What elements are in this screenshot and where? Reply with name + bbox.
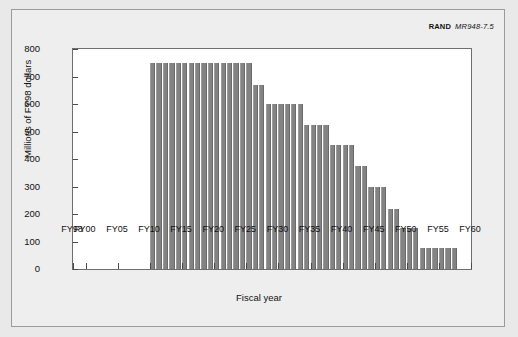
y-tick-label: 400 (0, 153, 40, 164)
bar (323, 125, 328, 269)
bar (163, 63, 168, 269)
bar (253, 85, 258, 269)
x-tick (311, 263, 312, 269)
bar (420, 248, 425, 269)
bar (285, 104, 290, 269)
bar (298, 104, 303, 269)
bar (426, 248, 431, 269)
bar (362, 166, 367, 269)
plot-area (72, 48, 472, 270)
y-tick-label: 800 (0, 43, 40, 54)
y-tick (73, 159, 78, 160)
y-tick-label: 300 (0, 180, 40, 191)
bar (240, 63, 245, 269)
y-tick-label: 0 (0, 263, 40, 274)
bar (343, 145, 348, 269)
x-tick (214, 263, 215, 269)
y-tick-label: 700 (0, 70, 40, 81)
bar (214, 63, 219, 269)
x-tick-label: FY15 (170, 224, 192, 234)
bar (195, 63, 200, 269)
x-tick-label: FY55 (427, 224, 449, 234)
bar (189, 63, 194, 269)
bar (169, 63, 174, 269)
y-tick (73, 49, 78, 50)
bar (208, 63, 213, 269)
rand-credit: RANDMR948-7.5 (429, 22, 494, 31)
x-tick-label: FY50 (395, 224, 417, 234)
y-tick (73, 214, 78, 215)
bar (452, 248, 457, 269)
x-tick (118, 263, 119, 269)
x-tick-label: FY00 (74, 224, 96, 234)
bars-container (73, 49, 471, 269)
bar (304, 125, 309, 269)
x-tick (73, 263, 74, 269)
bar (311, 125, 316, 269)
bar (278, 104, 283, 269)
y-tick-label: 100 (0, 235, 40, 246)
rand-report-number: MR948-7.5 (455, 22, 494, 31)
x-tick (150, 263, 151, 269)
bar (394, 209, 399, 270)
y-tick (73, 187, 78, 188)
bar (317, 125, 322, 269)
x-tick-label: FY05 (106, 224, 128, 234)
bar (259, 85, 264, 269)
bar (246, 63, 251, 269)
bar (201, 63, 206, 269)
bar (388, 209, 393, 270)
bar (432, 248, 437, 269)
bar (266, 104, 271, 269)
bar (221, 63, 226, 269)
bar (150, 63, 155, 269)
y-tick (73, 104, 78, 105)
rand-logo-text: RAND (429, 22, 451, 31)
figure: RANDMR948-7.5 Millions of FY98 dollars 0… (0, 0, 518, 337)
y-tick (73, 132, 78, 133)
x-tick-label: FY45 (363, 224, 385, 234)
bar (182, 63, 187, 269)
x-tick (471, 263, 472, 269)
x-tick-label: FY10 (138, 224, 160, 234)
y-tick-label: 200 (0, 208, 40, 219)
bar (445, 248, 450, 269)
y-tick-label: 600 (0, 98, 40, 109)
bar (336, 145, 341, 269)
x-tick-label: FY60 (459, 224, 481, 234)
x-tick-label: FY35 (299, 224, 321, 234)
x-tick-label: FY25 (235, 224, 257, 234)
y-tick (73, 77, 78, 78)
bar (355, 166, 360, 269)
x-tick (182, 263, 183, 269)
bar (291, 104, 296, 269)
x-tick-label: FY40 (331, 224, 353, 234)
x-tick (86, 263, 87, 269)
bar (233, 63, 238, 269)
y-tick-label: 500 (0, 125, 40, 136)
bar (227, 63, 232, 269)
bar (272, 104, 277, 269)
x-tick-label: FY20 (202, 224, 224, 234)
x-tick (343, 263, 344, 269)
x-tick (375, 263, 376, 269)
y-tick (73, 242, 78, 243)
x-tick (439, 263, 440, 269)
bar (176, 63, 181, 269)
x-tick (407, 263, 408, 269)
bar (156, 63, 161, 269)
x-tick (278, 263, 279, 269)
x-tick-label: FY30 (267, 224, 289, 234)
x-axis-title: Fiscal year (0, 292, 518, 303)
x-tick (246, 263, 247, 269)
y-tick (73, 269, 78, 270)
bar (349, 145, 354, 269)
bar (330, 145, 335, 269)
